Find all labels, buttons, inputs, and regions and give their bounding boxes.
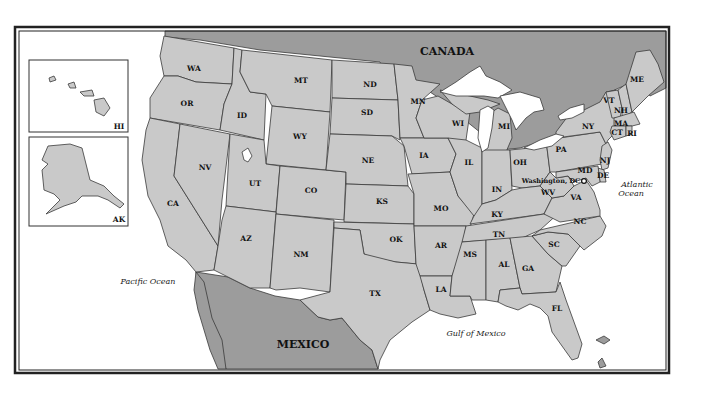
label-tx: TX	[369, 289, 381, 298]
label-mo: MO	[434, 204, 449, 213]
label-fl: FL	[552, 304, 563, 313]
label-de: DE	[597, 171, 610, 180]
capital-label: Washington, DC	[521, 177, 580, 185]
state-az[interactable]	[214, 206, 276, 288]
label-ri: RI	[627, 129, 637, 138]
label-nc: NC	[574, 217, 587, 226]
label-nm: NM	[293, 250, 308, 259]
gulf-of-mexico-label: Gulf of Mexico	[446, 329, 505, 338]
label-or: OR	[181, 99, 195, 108]
label-ne: NE	[362, 156, 375, 165]
label-az: AZ	[239, 234, 252, 243]
label-ma: MA	[614, 119, 628, 128]
label-mn: MN	[410, 97, 425, 106]
mexico-label: MEXICO	[277, 338, 330, 351]
label-sd: SD	[361, 108, 373, 117]
us-map: HI AK WA OR CA ID NV MT WY UT CO AZ NM N…	[0, 0, 706, 396]
caribbean-island	[598, 358, 606, 368]
label-ga: GA	[522, 264, 534, 273]
cuba-island	[596, 336, 610, 344]
label-co: CO	[305, 186, 318, 195]
label-nj: NJ	[600, 156, 611, 165]
label-mi: MI	[498, 122, 510, 131]
state-fl[interactable]	[498, 282, 582, 360]
atlantic-ocean-label-line2: Ocean	[618, 189, 644, 198]
label-oh: OH	[513, 158, 527, 167]
capital-marker-icon[interactable]	[582, 179, 587, 184]
label-ks: KS	[376, 197, 388, 206]
label-ky: KY	[491, 210, 503, 219]
label-ct: CT	[611, 128, 623, 137]
label-ok: OK	[389, 235, 403, 244]
label-me: ME	[630, 75, 644, 84]
label-mt: MT	[294, 76, 308, 85]
label-va: VA	[569, 193, 581, 202]
label-ca: CA	[167, 199, 179, 208]
label-nd: ND	[363, 80, 377, 89]
label-nh: NH	[614, 106, 628, 115]
atlantic-ocean-label-line1: Atlantic	[620, 180, 653, 189]
label-tn: TN	[493, 230, 506, 239]
label-vt: VT	[602, 96, 615, 105]
label-in: IN	[492, 185, 503, 194]
label-ia: IA	[419, 151, 429, 160]
label-md: MD	[578, 166, 593, 175]
hawaii-inset-label: HI	[114, 122, 125, 131]
label-wy: WY	[292, 132, 307, 141]
label-wi: WI	[451, 119, 464, 128]
label-sc: SC	[548, 240, 559, 249]
label-pa: PA	[556, 145, 567, 154]
label-id: ID	[237, 111, 248, 120]
label-nv: NV	[199, 163, 212, 172]
label-ar: AR	[434, 241, 448, 250]
label-il: IL	[465, 158, 475, 167]
label-la: LA	[435, 285, 446, 294]
canada-label: CANADA	[420, 45, 474, 58]
label-ms: MS	[463, 250, 477, 259]
label-wa: WA	[186, 64, 201, 73]
label-wv: WV	[540, 188, 555, 197]
alaska-inset-label: AK	[112, 215, 126, 224]
pacific-ocean-label: Pacific Ocean	[120, 277, 176, 286]
state-sd[interactable]	[330, 98, 400, 140]
label-ny: NY	[582, 122, 595, 131]
label-al: AL	[497, 260, 510, 269]
label-ut: UT	[249, 179, 262, 188]
